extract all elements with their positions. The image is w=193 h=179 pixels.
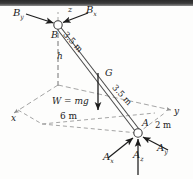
y-axis-label: y bbox=[174, 107, 179, 116]
force-bx-label: Bx bbox=[86, 5, 97, 17]
arrow-bx bbox=[63, 13, 88, 23]
x-axis-label: x bbox=[11, 114, 16, 123]
dim-height-h-label: h bbox=[57, 52, 63, 61]
force-by-sub: y bbox=[20, 13, 24, 20]
z-axis-label: z bbox=[68, 6, 72, 14]
weight-label: W = mg bbox=[52, 97, 89, 106]
force-az-label: Az bbox=[133, 150, 144, 162]
node-a-circle bbox=[134, 129, 142, 137]
dim-span-2m-label: 2 m bbox=[155, 121, 171, 130]
statics-free-body-diagram: x y z B A G By Bx Ax Az Ay h 3.5 m 3.5 m… bbox=[0, 0, 193, 179]
force-ax-label: Ax bbox=[103, 152, 114, 164]
force-ay-label: Ay bbox=[157, 143, 168, 155]
node-b-circle bbox=[54, 21, 62, 29]
point-b-label: B bbox=[51, 30, 58, 40]
point-g-label: G bbox=[105, 68, 113, 78]
dim-span-6m-label: 6 m bbox=[60, 112, 77, 121]
force-by-label: By bbox=[13, 8, 24, 20]
force-az-sub: z bbox=[140, 155, 143, 162]
point-a-label: A bbox=[142, 118, 149, 128]
force-bx-sub: x bbox=[93, 10, 97, 17]
force-ax-sub: x bbox=[110, 157, 114, 164]
arrow-by bbox=[26, 14, 54, 23]
force-ay-sub: y bbox=[164, 148, 168, 155]
